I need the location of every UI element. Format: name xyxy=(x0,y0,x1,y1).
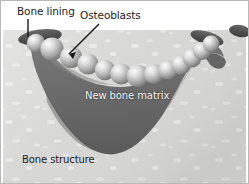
osteoblast-cell xyxy=(203,36,220,53)
diagram-canvas xyxy=(0,0,249,184)
bone-formation-diagram: Bone lining Osteoblasts New bone matrix … xyxy=(0,0,249,184)
